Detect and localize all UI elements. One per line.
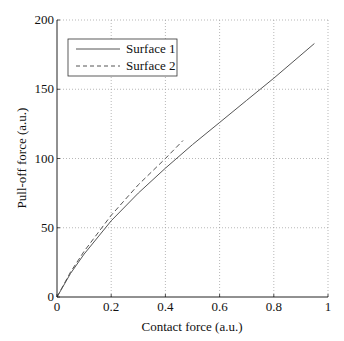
data-series	[57, 44, 314, 298]
legend-label-surface-1: Surface 1	[126, 41, 175, 56]
x-tick-label: 0.6	[211, 299, 228, 314]
series-2-line	[57, 141, 183, 298]
y-axis-label: Pull-off force (a.u.)	[14, 108, 29, 209]
x-axis-label: Contact force (a.u.)	[141, 319, 242, 334]
series-1-line	[57, 44, 314, 298]
legend-label-surface-2: Surface 2	[126, 58, 175, 73]
y-tick-label: 200	[35, 12, 55, 27]
x-tick-label: 1	[325, 299, 332, 314]
x-tick-label: 0	[54, 299, 61, 314]
x-tick-label: 0.4	[157, 299, 174, 314]
y-tick-label: 0	[48, 289, 55, 304]
y-tick-label: 150	[35, 81, 55, 96]
chart: 00.20.40.60.81050100150200 Contact force…	[0, 0, 344, 341]
y-tick-label: 100	[35, 151, 55, 166]
y-tick-label: 50	[41, 220, 54, 235]
x-tick-label: 0.8	[266, 299, 282, 314]
legend: Surface 1 Surface 2	[68, 39, 177, 76]
x-tick-label: 0.2	[103, 299, 119, 314]
